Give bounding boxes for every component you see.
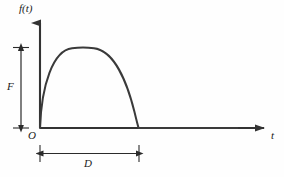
pulse-function-diagram (0, 0, 284, 177)
duration-label: D (84, 158, 92, 169)
amplitude-label: F (7, 81, 14, 92)
figure-container: f(t) O t F D (0, 0, 284, 177)
y-axis-label: f(t) (19, 3, 32, 14)
pulse-curve (40, 48, 139, 128)
origin-label: O (28, 130, 36, 141)
x-axis-label: t (271, 130, 274, 141)
